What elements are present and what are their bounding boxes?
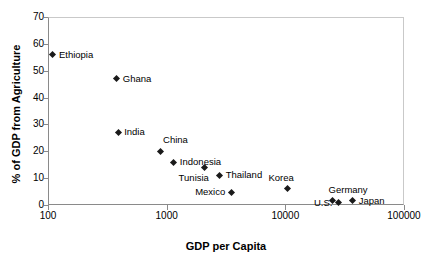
y-axis-tick-label: 20: [0, 146, 44, 156]
y-axis-tick-label: 0: [0, 200, 44, 210]
x-axis-tick-label: 10000: [245, 211, 325, 221]
data-point-label: Mexico: [195, 187, 225, 197]
y-axis-tick-mark: [44, 178, 48, 179]
y-axis-tick-label: 70: [0, 12, 44, 22]
y-axis-tick-label: 60: [0, 39, 44, 49]
y-axis-title: % of GDP from Agriculture: [10, 14, 22, 214]
data-point-label: Ghana: [123, 74, 152, 84]
y-axis-tick-mark: [44, 44, 48, 45]
y-axis-tick-mark: [44, 71, 48, 72]
y-axis-tick-label: 10: [0, 173, 44, 183]
data-point-label: Japan: [359, 196, 385, 206]
data-point-label: U.S.: [314, 198, 332, 208]
x-axis-tick-label: 1000: [127, 211, 207, 221]
y-axis-tick-label: 40: [0, 93, 44, 103]
data-point-label: Korea: [268, 173, 293, 183]
data-point-label: Indonesia: [180, 157, 221, 167]
x-axis-tick-label: 100000: [364, 211, 434, 221]
data-point-label: Thailand: [226, 171, 262, 181]
x-axis-title: GDP per Capita: [48, 240, 404, 252]
y-axis-tick-label: 30: [0, 119, 44, 129]
y-axis-tick-mark: [44, 17, 48, 18]
scatter-chart: 010203040506070 % of GDP from Agricultur…: [0, 0, 434, 264]
y-axis-tick-mark: [44, 151, 48, 152]
data-point-label: Tunisia: [179, 174, 209, 184]
y-axis-tick-mark: [44, 124, 48, 125]
x-axis-tick-label: 100: [8, 211, 88, 221]
data-point-marker: [335, 199, 342, 206]
y-axis-tick-mark: [44, 98, 48, 99]
data-point-label: Ethiopia: [59, 50, 93, 60]
data-point-label: Germany: [329, 185, 368, 195]
y-axis-tick-label: 50: [0, 66, 44, 76]
data-point-label: India: [124, 128, 145, 138]
data-point-label: China: [163, 136, 188, 146]
